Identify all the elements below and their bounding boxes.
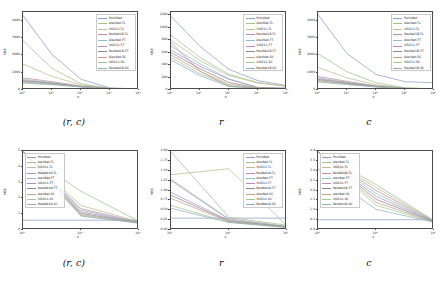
legend-label: VGG11-FT [256, 44, 272, 47]
legend-swatch [246, 68, 255, 69]
y-tick-mark [316, 72, 317, 73]
y-tick-mark [168, 170, 169, 171]
y-tick-mark [168, 27, 169, 28]
legend-label: AlexNet-SC [256, 193, 273, 196]
y-tick-mark [168, 77, 169, 78]
y-tick-label: 3.0 [298, 168, 315, 172]
x-tick-mark [286, 229, 287, 230]
legend-swatch [322, 173, 331, 174]
y-tick-label: 0.50 [151, 207, 168, 211]
x-tick-label: 10¹ [192, 91, 206, 95]
legend-top-right: PointNetAlexNet-TLVGG11-TLResNet18-TLAle… [391, 14, 431, 72]
legend-label: VGG11-FT [109, 44, 125, 47]
legend-label: PointNet [333, 156, 346, 159]
y-tick-mark [168, 219, 169, 220]
legend-swatch [27, 194, 36, 195]
legend-label: VGG11-SC [333, 198, 349, 201]
y-axis-label: MSE [3, 188, 7, 195]
x-tick-label: 10⁰ [163, 231, 177, 235]
x-tick-mark [80, 89, 81, 90]
panel-bottom-right: 4.03.53.02.52.01.51.00.50.010⁰10¹10²λMSE… [295, 140, 443, 281]
x-tick-label: 10⁴ [131, 91, 145, 95]
legend-bottom-left: PointNetAlexNet-TLVGG11-TLResNet18-TLAle… [25, 153, 65, 208]
x-tick-mark [138, 89, 139, 90]
y-tick-label: 1.75 [151, 158, 168, 162]
y-tick-label: 1.0 [298, 207, 315, 211]
legend-label: ResNet18-SC [256, 67, 276, 70]
figure-row-top: 4000300020001000010⁰10¹10²10³10⁴nMSEPoin… [0, 0, 443, 140]
legend-label: VGG11-SC [38, 198, 54, 201]
x-tick-label: 10⁰ [310, 91, 324, 95]
x-tick-label: 10⁰ [310, 231, 324, 235]
y-tick-mark [316, 190, 317, 191]
legend-label: ResNet18-FT [256, 50, 276, 53]
legend-label: VGG11-SC [256, 198, 272, 201]
legend-label: ResNet18-FT [109, 50, 129, 53]
legend-bottom-right: PointNetAlexNet-TLVGG11-TLResNet18-TLAle… [320, 153, 360, 208]
chart-panel-bottom-left: 54321010⁰10¹10²λMSEPointNetAlexNet-TLVGG… [0, 140, 148, 281]
panel-caption-bottom-left: (r, c) [0, 257, 148, 268]
panel-caption-top-left: (r, c) [0, 116, 148, 127]
legend-label: VGG11-FT [256, 182, 271, 185]
legend-swatch [393, 46, 402, 47]
legend-swatch [246, 188, 255, 189]
legend-label: PointNet [256, 156, 269, 159]
y-axis-label: MSE [298, 48, 302, 55]
legend-swatch [322, 204, 331, 205]
y-axis-label: MSE [150, 188, 154, 195]
chart-panel-top-middle: 12001000800600400200010⁰10¹10²10³10⁴nMSE… [148, 0, 296, 140]
y-tick-label: 1.25 [151, 178, 168, 182]
x-tick-label: 10⁴ [279, 91, 293, 95]
x-tick-mark [80, 229, 81, 230]
y-tick-mark [316, 199, 317, 200]
legend-swatch [246, 51, 255, 52]
y-tick-mark [21, 37, 22, 38]
y-axis-label: MSE [298, 188, 302, 195]
y-tick-label: 1.5 [298, 197, 315, 201]
legend-swatch [27, 173, 36, 174]
legend-entry: ResNet18-SC [98, 65, 134, 71]
legend-swatch [393, 18, 402, 19]
legend-swatch [246, 178, 255, 179]
y-tick-mark [168, 190, 169, 191]
x-tick-mark [138, 229, 139, 230]
x-tick-mark [346, 89, 347, 90]
y-tick-label: 2 [3, 195, 20, 199]
legend-label: ResNet18-TL [109, 33, 129, 36]
legend-swatch [246, 157, 255, 158]
x-tick-mark [199, 89, 200, 90]
legend-swatch [246, 34, 255, 35]
chart-panel-top-left: 4000300020001000010⁰10¹10²10³10⁴nMSEPoin… [0, 0, 148, 140]
legend-label: ResNet18-SC [404, 67, 424, 70]
legend-label: VGG11-TL [38, 166, 53, 169]
y-tick-mark [168, 160, 169, 161]
x-tick-mark [170, 229, 171, 230]
legend-swatch [322, 167, 331, 168]
chart-panel-top-right: 4000300020001000010⁰10¹10²10³10⁴nMSEPoin… [295, 0, 443, 140]
legend-swatch [322, 157, 331, 158]
legend-bottom-middle: PointNetAlexNet-TLVGG11-TLResNet18-TLAle… [243, 153, 283, 208]
legend-swatch [322, 178, 331, 179]
x-tick-mark [286, 89, 287, 90]
legend-label: PointNet [38, 156, 51, 159]
legend-swatch [393, 68, 402, 69]
y-tick-label: 800 [151, 37, 168, 41]
y-tick-label: 1000 [3, 70, 20, 74]
y-tick-label: 400 [151, 62, 168, 66]
legend-swatch [27, 157, 36, 158]
y-tick-label: 3000 [298, 35, 315, 39]
x-tick-mark [228, 229, 229, 230]
legend-label: ResNet18-TL [256, 33, 276, 36]
y-tick-mark [21, 213, 22, 214]
legend-label: AlexNet-FT [256, 39, 273, 42]
y-tick-label: 1000 [151, 25, 168, 29]
legend-swatch [27, 167, 36, 168]
legend-entry: ResNet18-SC [245, 202, 281, 207]
legend-label: AlexNet-FT [404, 39, 421, 42]
legend-swatch [393, 57, 402, 58]
series-AlexNet-SC [23, 82, 138, 89]
y-tick-label: 0.5 [298, 217, 315, 221]
legend-swatch [393, 29, 402, 30]
legend-swatch [246, 23, 255, 24]
y-tick-mark [21, 20, 22, 21]
